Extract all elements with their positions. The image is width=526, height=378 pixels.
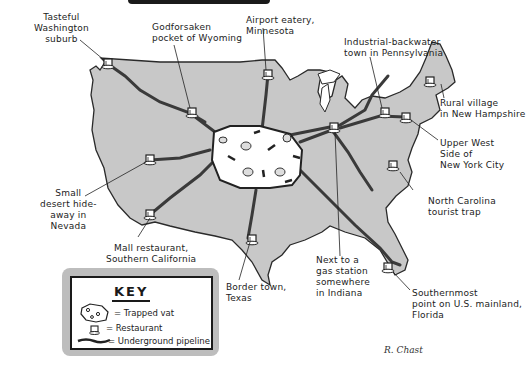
restaurant-icon bbox=[102, 59, 114, 69]
trapped-vat bbox=[212, 126, 302, 188]
restaurant-icon bbox=[262, 70, 274, 80]
restaurant-icon bbox=[400, 113, 412, 123]
trapped-vat-icon bbox=[81, 304, 108, 322]
label-nevada: Small desert hide- away in Nevada bbox=[40, 188, 97, 232]
restaurant-icon bbox=[387, 161, 399, 171]
label-florida: Southernmost point on U.S. mainland, Flo… bbox=[412, 288, 522, 321]
label-indiana: Next to a gas station somewhere in India… bbox=[316, 255, 370, 299]
label-north-carolina: North Carolina tourist trap bbox=[428, 196, 496, 218]
key-trapped-vat-label: = Trapped vat bbox=[114, 308, 174, 318]
pipeline-icon bbox=[78, 340, 110, 343]
label-pennsylvania: Industrial-backwater town in Pennsylvani… bbox=[344, 37, 443, 59]
restaurant-icon bbox=[328, 123, 340, 133]
restaurant-icon bbox=[382, 263, 394, 273]
label-new-hampshire: Rural village in New Hampshire bbox=[440, 98, 525, 120]
cartoon-map: Tasteful Washington suburb Godforsaken p… bbox=[0, 0, 526, 378]
label-washington: Tasteful Washington suburb bbox=[34, 12, 89, 45]
restaurant-icon bbox=[379, 108, 391, 118]
restaurant-icon bbox=[246, 235, 258, 245]
label-wyoming: Godforsaken pocket of Wyoming bbox=[152, 22, 242, 44]
restaurant-icon bbox=[186, 108, 198, 118]
artist-signature: R. Chast bbox=[384, 345, 423, 355]
restaurant-icon bbox=[90, 326, 100, 335]
restaurant-icon bbox=[144, 155, 156, 165]
label-nyc: Upper West Side of New York City bbox=[440, 138, 504, 171]
key-title: KEY bbox=[114, 284, 148, 299]
map-key: KEY = Trapped vat = Restaurant = Undergr… bbox=[62, 268, 219, 356]
restaurant-icon bbox=[424, 77, 436, 87]
key-restaurant-label: = Restaurant bbox=[106, 323, 162, 333]
key-pipeline-label: = Underground pipeline bbox=[108, 336, 210, 346]
key-panel: KEY = Trapped vat = Restaurant = Undergr… bbox=[70, 276, 213, 350]
label-minnesota: Airport eatery, Minnesota bbox=[246, 15, 315, 37]
label-texas: Border town, Texas bbox=[226, 282, 286, 304]
label-california: Mall restaurant, Southern California bbox=[106, 243, 196, 265]
key-title-underline bbox=[112, 300, 150, 302]
